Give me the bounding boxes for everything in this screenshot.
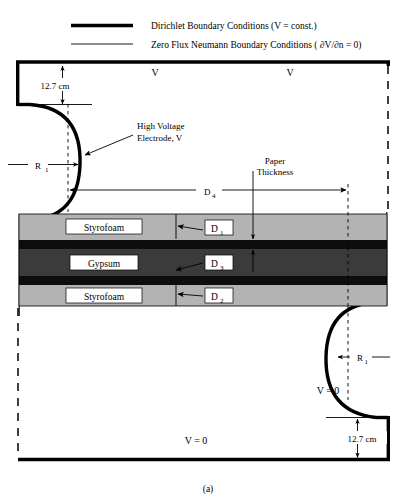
dimension-radius-right: R 1 bbox=[338, 353, 390, 366]
potential-label-right-ground: V = 0 bbox=[317, 385, 340, 396]
annotation-high-voltage-electrode: High Voltage Electrode, V bbox=[85, 121, 184, 155]
d3-label-box bbox=[205, 255, 233, 270]
potential-label-bottom: V = 0 bbox=[185, 435, 208, 446]
d1-label-box bbox=[205, 220, 233, 235]
styrofoam-bottom-label: Styrofoam bbox=[84, 292, 125, 302]
dimension-bottom-gap: 12.7 cm bbox=[326, 418, 387, 458]
right-ground-electrode-arc bbox=[326, 303, 376, 418]
d2-label: D bbox=[211, 292, 218, 302]
figure-caption: (a) bbox=[203, 484, 214, 495]
electrode-callout-line1: High Voltage bbox=[137, 121, 184, 131]
r1-left-label-subscript: 1 bbox=[45, 166, 49, 174]
d1-label: D bbox=[211, 224, 218, 234]
dimension-top-gap: 12.7 cm bbox=[28, 66, 92, 105]
dimension-radius-left: R 1 bbox=[8, 161, 78, 174]
layer-paper-upper bbox=[19, 240, 387, 249]
r1-right-label: R bbox=[357, 353, 363, 363]
d4-label: D bbox=[204, 187, 211, 197]
r1-left-label: R bbox=[35, 161, 41, 171]
d2-label-subscript: 2 bbox=[220, 297, 224, 305]
legend-label-dirichlet: Dirichlet Boundary Conditions (V = const… bbox=[151, 21, 317, 32]
electrode-callout-line2: Electrode, V bbox=[137, 133, 183, 143]
r1-right-label-subscript: 1 bbox=[365, 358, 369, 366]
potential-label-top-right: V bbox=[286, 67, 294, 78]
bottom-gap-label: 12.7 cm bbox=[348, 434, 377, 444]
d2-label-box bbox=[205, 288, 233, 303]
paper-thickness-line1: Paper bbox=[265, 156, 286, 166]
paper-thickness-line2: Thickness bbox=[257, 167, 294, 177]
top-gap-label: 12.7 cm bbox=[41, 81, 70, 91]
d4-label-subscript: 4 bbox=[212, 192, 216, 200]
d1-label-subscript: 1 bbox=[220, 229, 224, 237]
legend: Dirichlet Boundary Conditions (V = const… bbox=[71, 21, 362, 51]
potential-label-top-left: V bbox=[151, 67, 159, 78]
layer-paper-lower bbox=[19, 276, 387, 285]
electrode-callout-arrow bbox=[85, 135, 133, 155]
gypsum-label: Gypsum bbox=[88, 259, 121, 269]
material-labels: Styrofoam Gypsum Styrofoam bbox=[66, 219, 142, 303]
boundary-condition-diagram: Dirichlet Boundary Conditions (V = const… bbox=[0, 0, 417, 504]
styrofoam-top-label: Styrofoam bbox=[84, 223, 125, 233]
legend-label-neumann: Zero Flux Neumann Boundary Conditions ( … bbox=[151, 40, 362, 51]
dimension-d4: D 4 bbox=[70, 187, 346, 200]
d3-label: D bbox=[211, 259, 218, 269]
figure-container: Dirichlet Boundary Conditions (V = const… bbox=[0, 0, 417, 504]
d3-label-subscript: 3 bbox=[220, 264, 224, 272]
